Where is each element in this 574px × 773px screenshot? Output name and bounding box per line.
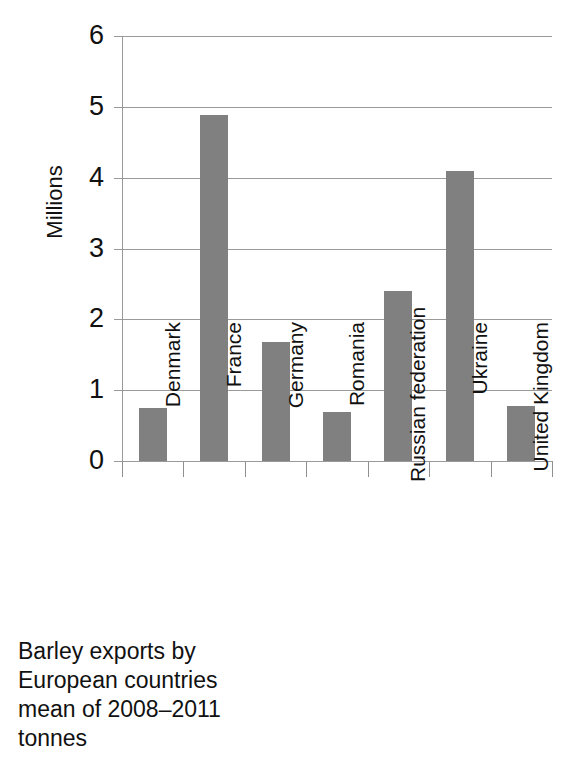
x-axis-category-label: France (223, 322, 245, 482)
y-axis-tick-label: 2 (60, 305, 104, 332)
x-axis-tick (429, 462, 430, 477)
y-axis-tick-label: 6 (60, 22, 104, 49)
caption-line-2: European countries (18, 666, 318, 695)
x-axis-tick (122, 462, 123, 477)
x-axis-category-label: Russian federation (407, 322, 429, 482)
gridline (122, 36, 552, 37)
y-axis-tick-label: 3 (60, 235, 104, 262)
bar-chart-figure: Millions 6543210 DenmarkFranceGermanyRom… (0, 0, 574, 773)
x-axis-category-label: Denmark (162, 322, 184, 482)
gridline (122, 178, 552, 179)
y-axis-tick-label: 1 (60, 376, 104, 403)
x-axis-category-label: Germany (285, 322, 307, 482)
x-axis-tick (552, 462, 553, 477)
y-axis-tick-label: 5 (60, 93, 104, 120)
chart-caption: Barley exports by European countries mea… (18, 637, 318, 753)
x-axis-category-label: Romania (346, 322, 368, 482)
caption-line-3: mean of 2008–2011 (18, 695, 318, 724)
gridline (122, 249, 552, 250)
y-axis-tick-label: 0 (60, 447, 104, 474)
gridline (122, 319, 552, 320)
caption-line-1: Barley exports by (18, 637, 318, 666)
x-axis-category-label: Ukraine (469, 322, 491, 482)
caption-line-4: tonnes (18, 724, 318, 753)
gridline (122, 107, 552, 108)
y-axis-tick-label: 4 (60, 164, 104, 191)
x-axis-category-label: United Kingdom (530, 322, 552, 482)
